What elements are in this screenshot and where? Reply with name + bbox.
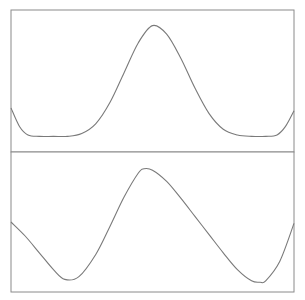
stacked-plot-figure (0, 0, 305, 300)
bottom-panel-frame (11, 152, 294, 292)
top-panel-frame (11, 10, 294, 152)
plot-canvas (0, 0, 305, 300)
